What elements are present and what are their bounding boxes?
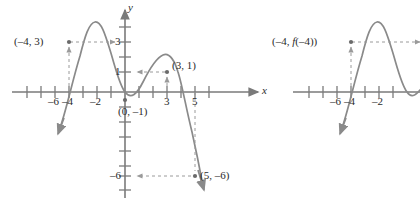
x-tick-label-neg2: –2 xyxy=(90,96,101,107)
point-label-5-neg6: (5, –6) xyxy=(200,170,229,181)
x-tick-label-neg2-right: –2 xyxy=(372,96,383,107)
point-5-neg6 xyxy=(193,174,197,178)
point-neg4-3 xyxy=(67,40,71,44)
point-label-0-neg1: (0, –1) xyxy=(118,106,147,117)
left-graph-svg xyxy=(0,0,280,206)
function-curve-right xyxy=(340,22,420,134)
point-label-neg4-3: (–4, 3) xyxy=(14,36,43,47)
left-graph-panel: –6 –4 –2 3 5 3 1 –6 x y (–4, 3) (3, 1) (… xyxy=(0,0,280,206)
right-graph-panel: –6 –4 –2 (–4, f(–4)) xyxy=(280,0,420,206)
x-tick-label-neg4-right: –4 xyxy=(344,96,355,107)
guide-lines-right xyxy=(351,42,420,86)
plotted-points-right xyxy=(349,40,353,44)
y-tick-label-1: 1 xyxy=(115,66,121,77)
graph-figure: –6 –4 –2 3 5 3 1 –6 x y (–4, 3) (3, 1) (… xyxy=(0,0,420,206)
point-0-neg1 xyxy=(123,98,127,102)
x-tick-label-neg6-right: –6 xyxy=(330,96,341,107)
y-tick-label-neg6: –6 xyxy=(110,170,121,181)
x-axis-right xyxy=(293,86,420,98)
point-label-suffix: (–4)) xyxy=(295,35,317,47)
x-tick-label-neg4: –4 xyxy=(62,96,73,107)
x-tick-label-3: 3 xyxy=(164,96,170,107)
point-neg4-fneg4 xyxy=(349,40,353,44)
y-tick-label-3: 3 xyxy=(115,36,121,47)
x-axis-label: x xyxy=(262,85,267,96)
point-label-3-1: (3, 1) xyxy=(172,60,196,71)
point-3-1 xyxy=(165,70,169,74)
y-axis-label: y xyxy=(128,2,133,13)
point-label-neg4-fneg4: (–4, f(–4)) xyxy=(272,36,317,47)
x-tick-label-5: 5 xyxy=(192,96,198,107)
x-tick-label-neg6: –6 xyxy=(48,96,59,107)
point-label-prefix: (–4, xyxy=(272,35,292,47)
